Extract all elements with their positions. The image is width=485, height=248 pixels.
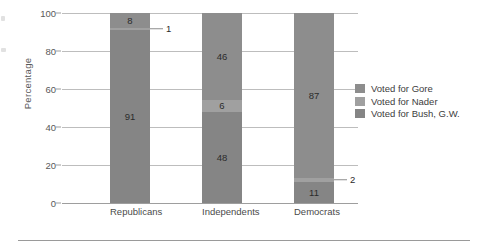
plot-area: 020406080100 9118Republicans48646Indepen… <box>62 13 340 203</box>
bar-segment[interactable]: 8 <box>110 13 150 28</box>
bar-value-label: 48 <box>217 153 228 163</box>
callout-leader-line <box>334 180 347 181</box>
x-axis-category-label: Republicans <box>110 206 150 217</box>
y-tick-label: 0 <box>51 198 56 209</box>
bar-value-label: 6 <box>219 101 224 111</box>
y-tick-label: 60 <box>45 84 56 95</box>
legend-swatch-icon <box>355 97 365 106</box>
bar-segment[interactable]: 2 <box>294 178 334 182</box>
bar-value-label: 11 <box>309 188 319 198</box>
callout-label: 2 <box>334 175 355 185</box>
y-tick-label: 20 <box>45 160 56 171</box>
bar-group[interactable]: 11287Democrats <box>294 13 334 203</box>
y-tick-mark <box>56 51 61 52</box>
y-tick-mark <box>56 89 61 90</box>
x-axis-category-label: Democrats <box>294 206 334 217</box>
scan-artifact-mark <box>1 48 6 52</box>
callout-value-label: 1 <box>166 24 171 34</box>
y-tick-label: 40 <box>45 122 56 133</box>
y-tick-mark <box>56 203 61 204</box>
bar-value-label: 87 <box>309 91 320 101</box>
y-tick-mark <box>56 13 61 14</box>
bar-group[interactable]: 48646Independents <box>202 13 242 203</box>
legend-item[interactable]: Voted for Nader <box>355 97 460 107</box>
y-tick-mark <box>56 127 61 128</box>
legend-label: Voted for Nader <box>371 97 438 107</box>
y-tick-mark <box>56 165 61 166</box>
bar-group[interactable]: 9118Republicans <box>110 13 150 203</box>
legend-label: Voted for Bush, G.W. <box>371 109 460 119</box>
legend-swatch-icon <box>355 84 365 93</box>
y-tick-label: 100 <box>40 8 56 19</box>
bar-segment[interactable]: 1 <box>110 28 150 30</box>
bar-value-label: 91 <box>125 112 136 122</box>
legend-swatch-icon <box>355 109 365 118</box>
bar-segment[interactable]: 48 <box>202 112 242 203</box>
x-axis-line <box>62 203 358 204</box>
bar-value-label: 46 <box>217 52 228 62</box>
bar-segment[interactable]: 46 <box>202 13 242 100</box>
legend-item[interactable]: Voted for Bush, G.W. <box>355 109 460 119</box>
legend-item[interactable]: Voted for Gore <box>355 84 460 94</box>
callout-leader-line <box>150 29 163 30</box>
chart-legend: Voted for GoreVoted for NaderVoted for B… <box>355 84 460 119</box>
legend-label: Voted for Gore <box>371 84 433 94</box>
callout-label: 1 <box>150 24 171 34</box>
x-axis-category-label: Independents <box>202 206 242 217</box>
footer-rule <box>18 240 470 241</box>
y-tick-label: 80 <box>45 46 56 57</box>
scan-artifact-mark <box>1 16 5 21</box>
callout-value-label: 2 <box>350 175 355 185</box>
bar-segment[interactable]: 91 <box>110 30 150 203</box>
chart-container: Percentage 020406080100 9118Republicans4… <box>0 0 485 248</box>
bar-segment[interactable]: 87 <box>294 13 334 178</box>
bar-segment[interactable]: 6 <box>202 100 242 111</box>
y-axis-title: Percentage <box>22 29 33 139</box>
bar-value-label: 8 <box>127 16 132 26</box>
bar-segment[interactable]: 11 <box>294 182 334 203</box>
